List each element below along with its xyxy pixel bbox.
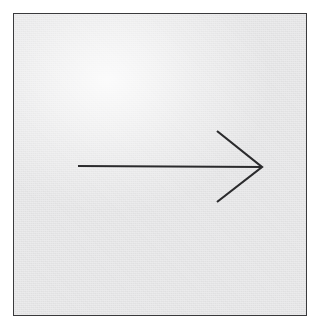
figure-root xyxy=(0,0,319,334)
arrow-canvas xyxy=(14,14,305,314)
arrow-shaft xyxy=(78,166,261,167)
figure-panel xyxy=(13,13,307,316)
